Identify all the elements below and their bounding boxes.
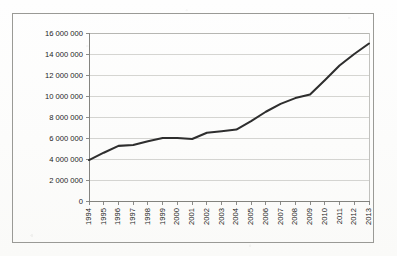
y-axis-tick-label: 8 000 000 <box>49 113 83 122</box>
x-axis-tickmarks <box>89 201 369 205</box>
x-axis-tick-label: 2006 <box>261 208 270 225</box>
y-axis-tick-label: 10 000 000 <box>45 92 83 101</box>
y-axis-tick-label: 6 000 000 <box>49 134 83 143</box>
x-axis-tick-label: 2004 <box>231 208 240 225</box>
x-axis-tick-label: 2000 <box>172 208 181 225</box>
x-axis-tick-label: 2002 <box>202 208 211 225</box>
x-axis-tick-label: 2005 <box>246 208 255 225</box>
screenshot-root: 16 000 00014 000 00012 000 00010 000 000… <box>0 0 397 256</box>
y-axis-tick-label: 16 000 000 <box>45 29 83 38</box>
y-axis-tick-label: 12 000 000 <box>45 71 83 80</box>
x-axis-tick-label: 1994 <box>84 208 93 225</box>
x-axis-tick-label: 2011 <box>335 208 344 224</box>
x-axis-tick-labels: 1994199519961997199819992000200120022003… <box>84 208 373 225</box>
x-axis-tick-label: 2010 <box>320 208 329 225</box>
x-axis-tick-label: 2001 <box>187 208 196 225</box>
chart-outer-frame: 16 000 00014 000 00012 000 00010 000 000… <box>12 13 374 243</box>
gridlines-group <box>89 33 369 201</box>
x-axis-tick-label: 1997 <box>128 208 137 225</box>
x-axis-tick-label: 2013 <box>364 208 373 225</box>
x-axis-tick-label: 1998 <box>143 208 152 225</box>
x-axis-tick-label: 1996 <box>113 208 122 225</box>
data-series-line <box>89 44 369 161</box>
y-axis-tick-label: 14 000 000 <box>45 50 83 59</box>
x-axis-tick-label: 2008 <box>290 208 299 225</box>
x-axis-tick-label: 2007 <box>276 208 285 225</box>
x-axis-tick-label: 2009 <box>305 208 314 225</box>
y-axis-tick-label: 4 000 000 <box>49 155 83 164</box>
x-axis-tick-label: 1999 <box>158 208 167 225</box>
y-axis-tickmarks <box>86 33 90 201</box>
x-axis-tick-label: 2012 <box>349 208 358 225</box>
y-axis-tick-label: 0 <box>79 197 83 206</box>
x-axis-tick-label: 1995 <box>99 208 108 225</box>
x-axis-tick-label: 2003 <box>217 208 226 225</box>
data-line-series <box>89 44 369 161</box>
line-chart: 16 000 00014 000 00012 000 00010 000 000… <box>13 14 373 242</box>
y-axis-tick-label: 2 000 000 <box>49 176 83 185</box>
y-axis-tick-labels: 16 000 00014 000 00012 000 00010 000 000… <box>45 29 83 206</box>
